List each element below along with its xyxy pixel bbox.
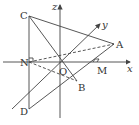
label-x-axis: x bbox=[127, 63, 133, 74]
label-z-axis: z bbox=[51, 1, 58, 12]
label-B: B bbox=[78, 82, 85, 93]
diagram-svg: C A N O M B D z y x bbox=[0, 0, 139, 125]
label-N: N bbox=[20, 57, 29, 68]
label-C: C bbox=[20, 10, 28, 21]
label-M: M bbox=[97, 65, 107, 76]
geometry-diagram: C A N O M B D z y x bbox=[0, 0, 139, 125]
label-A: A bbox=[115, 39, 124, 50]
label-y-axis: y bbox=[101, 19, 108, 30]
edge-NA bbox=[29, 44, 114, 62]
label-O: O bbox=[59, 66, 67, 77]
label-D: D bbox=[20, 106, 28, 117]
edge-DA bbox=[29, 44, 114, 109]
